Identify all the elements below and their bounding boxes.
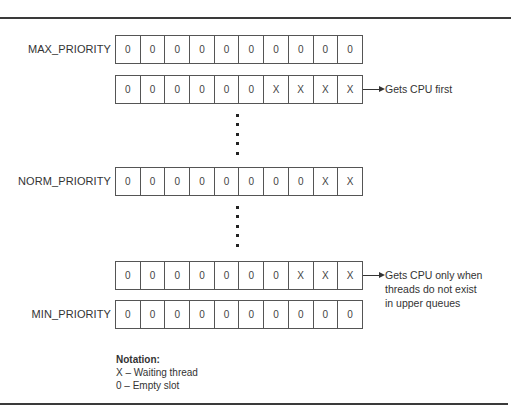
empty-slot: 0 — [190, 262, 215, 289]
queue-slots: 0000000XXX — [115, 261, 363, 290]
empty-slot: 0 — [141, 262, 166, 289]
waiting-thread-slot: X — [338, 262, 362, 289]
queue-annotation: Gets CPU first — [385, 82, 452, 96]
empty-slot: 0 — [165, 301, 190, 328]
empty-slot: 0 — [116, 301, 141, 328]
queue-slots: 0000000000 — [115, 300, 363, 329]
empty-slot: 0 — [289, 168, 314, 195]
empty-slot: 0 — [141, 168, 166, 195]
ellipsis-dot — [236, 225, 239, 228]
empty-slot: 0 — [264, 301, 289, 328]
empty-slot: 0 — [338, 301, 362, 328]
queue-row: NORM_PRIORITY00000000XX — [0, 167, 525, 196]
waiting-thread-slot: X — [264, 76, 289, 103]
empty-slot: 0 — [289, 301, 314, 328]
queue-label: NORM_PRIORITY — [18, 167, 111, 196]
annotation-line: Gets CPU first — [385, 82, 452, 96]
annotation-line: Gets CPU only when — [385, 268, 482, 282]
empty-slot: 0 — [190, 168, 215, 195]
bottom-rule — [0, 403, 508, 405]
empty-slot: 0 — [338, 36, 362, 63]
ellipsis-dot — [236, 152, 239, 155]
queue-slots: 000000XXXX — [115, 75, 363, 104]
queue-label: MAX_PRIORITY — [28, 35, 111, 64]
empty-slot: 0 — [116, 168, 141, 195]
ellipsis-dot — [236, 114, 239, 117]
top-rule — [0, 17, 511, 19]
empty-slot: 0 — [116, 36, 141, 63]
notation-title: Notation: — [116, 353, 198, 366]
annotation-line: threads do not exist — [385, 282, 482, 296]
arrow-right-icon — [363, 89, 380, 90]
queue-slots: 0000000000 — [115, 35, 363, 64]
waiting-thread-slot: X — [314, 168, 339, 195]
queue-row: MAX_PRIORITY0000000000 — [0, 35, 525, 64]
empty-slot: 0 — [141, 76, 166, 103]
empty-slot: 0 — [215, 301, 240, 328]
empty-slot: 0 — [165, 168, 190, 195]
waiting-thread-slot: X — [314, 262, 339, 289]
empty-slot: 0 — [314, 301, 339, 328]
waiting-thread-slot: X — [338, 76, 362, 103]
arrow-right-icon — [363, 275, 380, 276]
empty-slot: 0 — [264, 36, 289, 63]
queue-label: MIN_PRIORITY — [32, 300, 111, 329]
ellipsis-dot — [236, 215, 239, 218]
ellipsis-dot — [236, 244, 239, 247]
ellipsis-dot — [236, 234, 239, 237]
empty-slot: 0 — [215, 76, 240, 103]
empty-slot: 0 — [314, 36, 339, 63]
empty-slot: 0 — [141, 36, 166, 63]
empty-slot: 0 — [239, 301, 264, 328]
notation-item-waiting: X – Waiting thread — [116, 366, 198, 379]
empty-slot: 0 — [165, 262, 190, 289]
queue-row: 0000000XXXGets CPU only whenthreads do n… — [0, 261, 525, 290]
empty-slot: 0 — [190, 76, 215, 103]
empty-slot: 0 — [190, 301, 215, 328]
empty-slot: 0 — [215, 262, 240, 289]
empty-slot: 0 — [116, 76, 141, 103]
ellipsis-dot — [236, 133, 239, 136]
waiting-thread-slot: X — [289, 76, 314, 103]
empty-slot: 0 — [239, 262, 264, 289]
empty-slot: 0 — [190, 36, 215, 63]
empty-slot: 0 — [215, 168, 240, 195]
queue-row: MIN_PRIORITY0000000000 — [0, 300, 525, 329]
ellipsis-dot — [236, 142, 239, 145]
empty-slot: 0 — [289, 36, 314, 63]
queue-slots: 00000000XX — [115, 167, 363, 196]
empty-slot: 0 — [239, 36, 264, 63]
empty-slot: 0 — [264, 262, 289, 289]
empty-slot: 0 — [215, 36, 240, 63]
empty-slot: 0 — [239, 76, 264, 103]
queue-row: 000000XXXXGets CPU first — [0, 75, 525, 104]
empty-slot: 0 — [239, 168, 264, 195]
empty-slot: 0 — [264, 168, 289, 195]
notation-item-empty: 0 – Empty slot — [116, 379, 198, 392]
empty-slot: 0 — [141, 301, 166, 328]
waiting-thread-slot: X — [289, 262, 314, 289]
empty-slot: 0 — [165, 36, 190, 63]
waiting-thread-slot: X — [314, 76, 339, 103]
waiting-thread-slot: X — [338, 168, 362, 195]
ellipsis-dot — [236, 206, 239, 209]
empty-slot: 0 — [116, 262, 141, 289]
empty-slot: 0 — [165, 76, 190, 103]
ellipsis-dot — [236, 123, 239, 126]
notation-legend: Notation: X – Waiting thread 0 – Empty s… — [116, 353, 198, 392]
